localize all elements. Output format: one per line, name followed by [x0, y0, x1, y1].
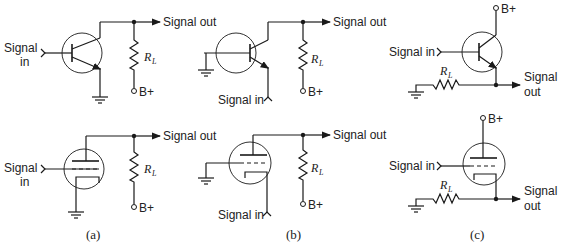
- load-resistor-icon: [130, 22, 138, 88]
- signal-in-label-2: in: [20, 175, 29, 189]
- signal-in-label-2: in: [20, 55, 29, 69]
- cathode-icon: [76, 177, 99, 212]
- load-resistor-icon: [299, 22, 307, 88]
- input-terminal-icon: [41, 49, 45, 57]
- svg-text:L: L: [447, 71, 453, 80]
- signal-in-label: Signal in: [218, 208, 264, 222]
- ground-icon: [408, 206, 424, 212]
- b-plus-label: B+: [139, 85, 154, 99]
- signal-out-label: Signal out: [163, 15, 217, 29]
- signal-out-label-2: out: [524, 85, 541, 99]
- ground-icon: [92, 97, 108, 103]
- signal-out-label: Signal out: [333, 15, 387, 29]
- input-terminal-icon: [41, 165, 45, 173]
- svg-text:L: L: [447, 185, 453, 194]
- input-terminal-icon: [263, 212, 271, 216]
- ground-icon: [198, 70, 214, 76]
- signal-in-label: Signal in: [389, 45, 435, 59]
- caption-c: (c): [470, 227, 484, 242]
- resistor-label: R: [143, 162, 152, 176]
- panel-c-transistor: B+ Signal in Signal out R L: [389, 2, 557, 99]
- supply-terminal-icon: [301, 89, 306, 94]
- input-terminal-icon: [437, 48, 441, 56]
- resistor-label: R: [310, 52, 319, 66]
- panel-b-tube: Signal in Signal out R L B+ (b): [198, 128, 387, 242]
- signal-in-label: Signal in: [389, 159, 435, 173]
- svg-text:L: L: [151, 57, 157, 66]
- load-resistor-icon: [299, 135, 307, 201]
- cathode-icon: [245, 172, 267, 213]
- input-terminal-icon: [264, 97, 272, 101]
- supply-terminal-icon: [132, 205, 137, 210]
- signal-out-label-2: out: [524, 199, 541, 213]
- panel-a-tube: Signal in Signal out R L B+ (a): [4, 129, 217, 242]
- b-plus-label: B+: [308, 85, 323, 99]
- caption-a: (a): [86, 227, 100, 242]
- resistor-label: R: [143, 50, 152, 64]
- resistor-label: R: [439, 64, 448, 78]
- cathode-icon: [474, 174, 496, 199]
- b-plus-label: B+: [501, 2, 516, 16]
- svg-text:L: L: [151, 169, 157, 178]
- signal-out-label: Signal: [524, 184, 557, 198]
- b-plus-label: B+: [488, 112, 503, 126]
- panel-b-transistor: Signal in Signal out R L B+: [198, 15, 387, 107]
- resistor-label: R: [439, 178, 448, 192]
- signal-in-label: Signal: [4, 41, 37, 55]
- signal-in-label: Signal in: [218, 93, 264, 107]
- supply-terminal-icon: [481, 116, 486, 121]
- svg-text:L: L: [318, 168, 324, 177]
- signal-out-label: Signal out: [333, 128, 387, 142]
- supply-terminal-icon: [301, 202, 306, 207]
- b-plus-label: B+: [308, 198, 323, 212]
- b-plus-label: B+: [139, 201, 154, 215]
- signal-in-label: Signal: [4, 161, 37, 175]
- panel-c-tube: B+ Signal in Signal out R L (c): [389, 112, 557, 242]
- amplifier-configurations-diagram: Signal in Signal out R L B+ Signal in: [0, 0, 562, 244]
- supply-terminal-icon: [494, 6, 499, 11]
- panel-a-transistor: Signal in Signal out R L B+: [4, 15, 217, 103]
- signal-out-label: Signal: [524, 70, 557, 84]
- input-terminal-icon: [437, 162, 441, 170]
- ground-icon: [68, 212, 84, 218]
- signal-out-label: Signal out: [163, 129, 217, 143]
- load-resistor-icon: [416, 194, 496, 206]
- ground-icon: [198, 178, 214, 184]
- load-resistor-icon: [130, 136, 138, 204]
- load-resistor-icon: [416, 80, 496, 92]
- ground-icon: [408, 92, 424, 98]
- caption-b: (b): [286, 227, 301, 242]
- tube-envelope-icon: [463, 143, 505, 185]
- svg-text:L: L: [318, 59, 324, 68]
- resistor-label: R: [310, 161, 319, 175]
- supply-terminal-icon: [132, 89, 137, 94]
